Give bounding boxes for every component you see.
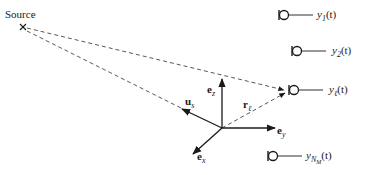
dashed-origin-to-mic-l — [222, 93, 285, 128]
us-label: us — [185, 96, 194, 110]
source-marker-icon — [20, 24, 26, 30]
ey-sub: y — [282, 130, 286, 139]
signal-ynm-label: yNM(t) — [306, 150, 332, 165]
ez-sub: z — [212, 89, 215, 98]
signal-y2-label: y2(t) — [332, 45, 351, 59]
microphone-nm-icon — [268, 151, 302, 161]
microphone-2-icon — [292, 46, 326, 56]
ez-label: ez — [207, 84, 215, 98]
signal-y1-label: y1(t) — [317, 9, 336, 23]
source-label: Source — [5, 9, 36, 20]
ex-label: ex — [197, 151, 205, 165]
signal-yl-label: yℓ(t) — [329, 84, 348, 98]
y1-arg: (t) — [326, 8, 336, 20]
rl-sub: ℓ — [248, 104, 251, 113]
microphone-l-icon — [289, 85, 323, 95]
yl-arg: (t) — [337, 83, 347, 95]
geometry-diagram — [0, 0, 371, 175]
microphone-1-icon — [279, 10, 313, 20]
us-sub: s — [191, 101, 194, 110]
unit-vector-us-arrow — [182, 109, 222, 128]
dashed-source-to-mic-l — [27, 28, 284, 90]
rl-label: rℓ — [243, 99, 251, 113]
ynm-arg: (t) — [321, 149, 331, 161]
y2-arg: (t) — [341, 44, 351, 56]
ey-label: ey — [277, 125, 285, 139]
ex-sub: x — [202, 156, 206, 165]
dashed-source-to-origin — [27, 31, 183, 109]
